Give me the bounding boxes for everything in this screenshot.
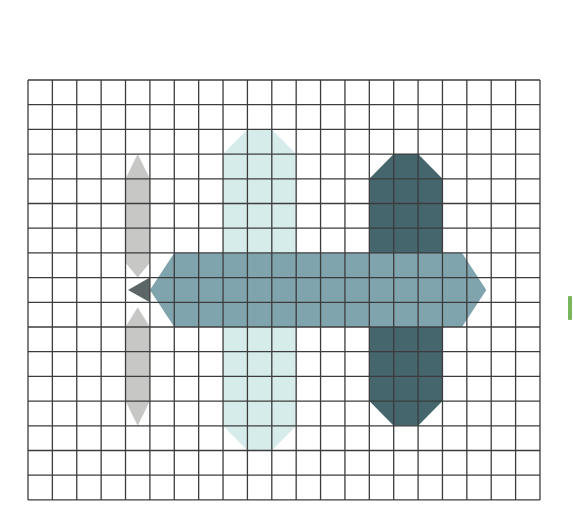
propeller-top-blade xyxy=(126,154,150,278)
airplane-grid-diagram xyxy=(0,0,573,530)
fuselage xyxy=(150,253,486,327)
green-edge-marker xyxy=(568,296,572,320)
propeller-bottom-blade xyxy=(126,307,150,426)
nose-cone xyxy=(128,278,150,303)
shapes-layer xyxy=(126,129,487,450)
